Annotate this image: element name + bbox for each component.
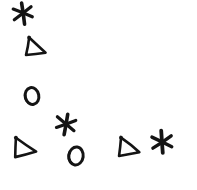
shapes-layer — [0, 0, 197, 190]
canvas-background — [0, 0, 197, 190]
sketch-canvas — [0, 0, 197, 190]
